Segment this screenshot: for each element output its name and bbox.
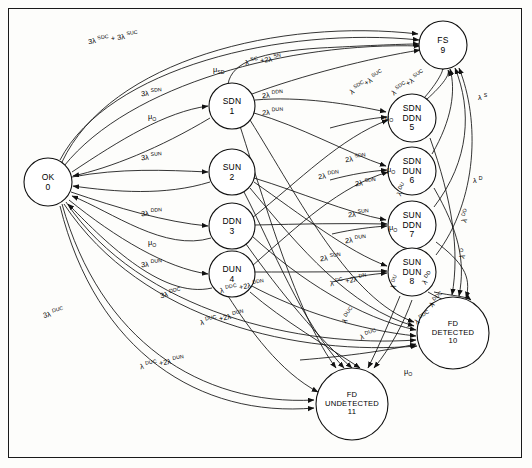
node-circle-6 bbox=[388, 147, 436, 195]
node-circle-8 bbox=[388, 248, 436, 296]
node-circle-2 bbox=[209, 149, 255, 195]
diagram-page: OK0SDN1SUN2DDN3DUN4SDNDDN5SDNDUN6SUNDDN7… bbox=[0, 0, 532, 468]
node-circles bbox=[24, 21, 489, 440]
node-circle-9 bbox=[419, 21, 467, 69]
node-circle-11 bbox=[316, 368, 388, 440]
node-circle-4 bbox=[209, 251, 255, 297]
node-circle-7 bbox=[388, 201, 436, 249]
node-circle-3 bbox=[209, 203, 255, 249]
node-circle-1 bbox=[209, 83, 255, 129]
diagram-canvas bbox=[0, 0, 532, 468]
node-circle-0 bbox=[24, 158, 72, 206]
node-circle-10 bbox=[417, 297, 489, 369]
node-circle-5 bbox=[388, 94, 436, 142]
